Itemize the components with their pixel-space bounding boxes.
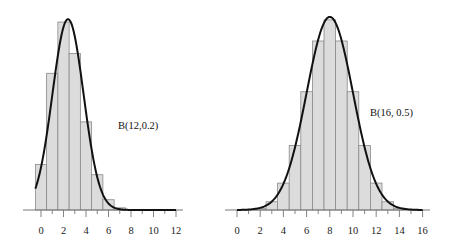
x-axis-ticks: 0246810121416	[234, 210, 427, 236]
tick-label: 4	[83, 225, 89, 236]
tick-label: 14	[394, 225, 405, 236]
histogram-bar	[359, 145, 371, 210]
tick-label: 12	[171, 225, 182, 236]
histogram-bar	[370, 183, 382, 210]
tick-label: 16	[417, 225, 428, 236]
chart-binomial-12-0.2: 024681012 B(12,0.2)	[23, 19, 183, 236]
tick-label: 10	[348, 225, 359, 236]
tick-label: 10	[148, 225, 159, 236]
chart-binomial-16-0.5: 0246810121416 B(16, 0.5)	[225, 17, 430, 236]
tick-label: 12	[371, 225, 382, 236]
histogram-bar	[324, 20, 336, 210]
distribution-label: B(12,0.2)	[118, 120, 159, 132]
histogram-bar	[312, 41, 324, 210]
histogram-bar	[336, 41, 348, 210]
tick-label: 2	[258, 225, 263, 236]
histogram-bar	[69, 53, 80, 210]
histogram-bar	[278, 183, 290, 210]
tick-label: 8	[128, 225, 133, 236]
x-axis-ticks: 024681012	[38, 210, 181, 236]
tick-label: 0	[234, 225, 239, 236]
tick-label: 0	[38, 225, 43, 236]
histogram-bar	[382, 202, 394, 210]
tick-label: 6	[304, 225, 309, 236]
tick-label: 4	[281, 225, 287, 236]
figure: 024681012 B(12,0.2) 0246810121416 B(16, …	[0, 0, 449, 252]
histogram-bar	[266, 202, 278, 210]
histogram-bar	[289, 145, 301, 210]
tick-label: 2	[61, 225, 66, 236]
tick-label: 6	[106, 225, 111, 236]
distribution-label: B(16, 0.5)	[370, 107, 413, 119]
tick-label: 8	[327, 225, 332, 236]
